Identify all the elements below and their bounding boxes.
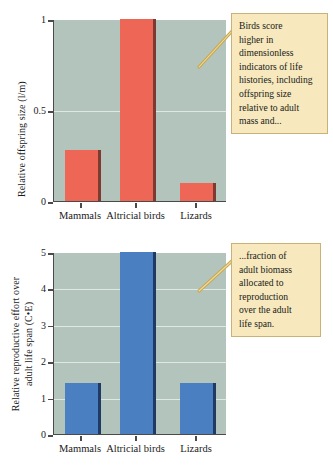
plot-area-reproductive-effort (53, 253, 226, 435)
x-tick-lizards-top (195, 203, 197, 208)
callout-line: ...fraction of (239, 249, 314, 263)
callout-line: adult biomass (239, 263, 314, 277)
x-axis-label-altricial-birds-top: Altricial birds (97, 211, 174, 222)
callout-line: offspring size (239, 87, 321, 101)
y-tick-bottom-2 (48, 362, 53, 364)
x-axis-label-lizards-bottom: Lizards (168, 444, 224, 455)
bar-mammals-top (65, 150, 98, 201)
bar-body (180, 183, 213, 201)
y-tick-label-bottom-2: 2 (28, 357, 46, 367)
y-axis-title-line-2: adult life span (C•E) (23, 302, 34, 386)
y-axis-title-top: Relative offspring size (l/m) (16, 81, 27, 197)
y-tick-bottom-4 (48, 289, 53, 291)
x-axis-label-altricial-birds-bottom: Altricial birds (97, 444, 174, 455)
x-tick-lizards-bottom (195, 436, 197, 441)
y-tick-bottom-5 (48, 253, 53, 255)
callout-line: reproduction (239, 290, 314, 304)
callout-line: life span. (239, 317, 314, 331)
y-tick-label-bottom-1: 1 (28, 394, 46, 404)
y-tick-label-bottom-4: 4 (28, 284, 46, 294)
y-tick-bottom-1 (48, 399, 53, 401)
x-tick-altricial-birds-top (135, 203, 137, 208)
y-tick-bottom-3 (48, 326, 53, 328)
chart-panel-offspring-size: Relative offspring size (l/m) 1 0.5 0 (0, 0, 333, 233)
x-tick-altricial-birds-bottom (135, 436, 137, 441)
y-axis-title-bottom: Relative reproductive effort over adult … (10, 253, 35, 435)
y-tick-label-top-0: 0 (28, 197, 46, 207)
bar-edge-shadow (153, 252, 156, 434)
y-tick-top-0.5 (48, 111, 53, 113)
plot-area-offspring-size (53, 20, 226, 202)
bar-edge-shadow (98, 383, 101, 434)
x-tick-mammals-top (80, 203, 82, 208)
y-tick-label-bottom-3: 3 (28, 321, 46, 331)
x-axis-label-lizards-top: Lizards (168, 211, 224, 222)
y-tick-top-0 (48, 202, 53, 204)
callout-line: indicators of life (239, 60, 321, 74)
callout-line: allocated to (239, 276, 314, 290)
figure-root: Relative offspring size (l/m) 1 0.5 0 (0, 0, 333, 466)
bar-edge-shadow (153, 19, 156, 201)
bar-edge-shadow (98, 150, 101, 201)
callout-line: Birds score (239, 19, 321, 33)
callout-line: dimensionless (239, 46, 321, 60)
bar-altricial-birds-top (120, 19, 153, 201)
y-tick-label-top-0.5: 0.5 (22, 106, 46, 116)
callout-line: over the adult (239, 303, 314, 317)
callout-box-top: Birds score higher in dimensionless indi… (231, 13, 328, 134)
bar-edge-shadow (213, 383, 216, 434)
x-tick-mammals-bottom (80, 436, 82, 441)
bar-body (65, 150, 98, 201)
bar-lizards-top (180, 183, 213, 201)
bar-body (120, 19, 153, 201)
y-axis-title-line-1: Relative reproductive effort over (10, 277, 21, 411)
y-tick-label-top-1: 1 (28, 15, 46, 25)
callout-line: histories, including (239, 73, 321, 87)
bar-altricial-birds-bottom (120, 252, 153, 434)
y-tick-bottom-0 (48, 435, 53, 437)
y-tick-top-1 (48, 20, 53, 22)
bar-mammals-bottom (65, 383, 98, 434)
y-tick-label-bottom-5: 5 (28, 248, 46, 258)
callout-line: mass and... (239, 114, 321, 128)
callout-box-bottom: ...fraction of adult biomass allocated t… (231, 243, 321, 337)
callout-line: higher in (239, 33, 321, 47)
bar-body (180, 383, 213, 434)
bar-lizards-bottom (180, 383, 213, 434)
y-tick-label-bottom-0: 0 (28, 430, 46, 440)
callout-line: relative to adult (239, 101, 321, 115)
bar-body (65, 383, 98, 434)
chart-panel-reproductive-effort: Relative reproductive effort over adult … (0, 233, 333, 466)
bar-edge-shadow (213, 183, 216, 201)
bar-body (120, 252, 153, 434)
